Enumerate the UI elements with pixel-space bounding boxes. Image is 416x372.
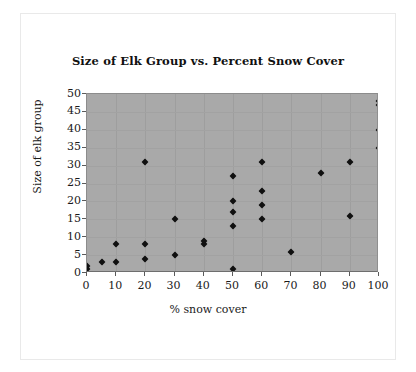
- y-tick-mark: [82, 236, 86, 237]
- data-point: [142, 158, 149, 165]
- data-point: [317, 169, 324, 176]
- x-tick-mark: [174, 272, 175, 276]
- y-tick-label: 30: [51, 159, 81, 170]
- gridline-horizontal: [87, 184, 377, 185]
- x-axis-tick-labels: 0102030405060708090100: [86, 279, 378, 295]
- gridline-horizontal: [87, 237, 377, 238]
- y-tick-mark: [82, 111, 86, 112]
- chart-title: Size of Elk Group vs. Percent Snow Cover: [0, 54, 416, 68]
- y-tick-label: 25: [51, 177, 81, 188]
- y-tick-label: 15: [51, 213, 81, 224]
- data-point: [259, 187, 266, 194]
- data-point: [142, 241, 149, 248]
- data-point: [171, 216, 178, 223]
- data-point: [171, 252, 178, 259]
- y-axis-tick-labels: 05101520253035404550: [48, 93, 81, 272]
- data-point: [288, 248, 295, 255]
- data-point: [229, 266, 236, 272]
- gridline-horizontal: [87, 219, 377, 220]
- x-tick-mark: [144, 272, 145, 276]
- y-tick-mark: [82, 93, 86, 94]
- gridline-horizontal: [87, 148, 377, 149]
- data-point: [229, 173, 236, 180]
- y-tick-label: 50: [51, 88, 81, 99]
- x-tick-mark: [349, 272, 350, 276]
- gridline-vertical: [233, 94, 234, 271]
- y-tick-mark: [82, 200, 86, 201]
- y-tick-mark: [82, 147, 86, 148]
- data-point: [259, 201, 266, 208]
- x-tick-mark: [261, 272, 262, 276]
- gridline-horizontal: [87, 130, 377, 131]
- data-point: [375, 126, 378, 133]
- x-tick-mark: [203, 272, 204, 276]
- data-point: [259, 216, 266, 223]
- y-tick-mark: [82, 129, 86, 130]
- y-tick-label: 10: [51, 231, 81, 242]
- y-tick-label: 5: [51, 249, 81, 260]
- data-point: [113, 259, 120, 266]
- x-tick-mark: [378, 272, 379, 276]
- y-tick-label: 20: [51, 195, 81, 206]
- gridline-vertical: [262, 94, 263, 271]
- gridline-horizontal: [87, 166, 377, 167]
- data-point: [229, 223, 236, 230]
- y-tick-mark: [82, 254, 86, 255]
- data-point: [113, 241, 120, 248]
- plot-area: [86, 93, 378, 272]
- gridline-vertical: [175, 94, 176, 271]
- x-tick-mark: [86, 272, 87, 276]
- gridline-vertical: [350, 94, 351, 271]
- data-point: [98, 259, 105, 266]
- x-tick-mark: [320, 272, 321, 276]
- gridline-horizontal: [87, 255, 377, 256]
- y-tick-label: 35: [51, 141, 81, 152]
- gridline-horizontal: [87, 112, 377, 113]
- figure-page: Size of Elk Group vs. Percent Snow Cover…: [0, 0, 416, 372]
- y-tick-label: 40: [51, 123, 81, 134]
- data-point: [229, 209, 236, 216]
- x-tick-mark: [290, 272, 291, 276]
- y-tick-label: 45: [51, 105, 81, 116]
- y-tick-mark: [82, 272, 86, 273]
- y-axis-title: Size of elk group: [31, 82, 44, 212]
- data-point: [229, 198, 236, 205]
- data-point: [375, 144, 378, 151]
- y-tick-mark: [82, 165, 86, 166]
- data-point: [346, 158, 353, 165]
- y-tick-label: 0: [51, 267, 81, 278]
- y-tick-mark: [82, 218, 86, 219]
- gridline-vertical: [321, 94, 322, 271]
- x-tick-mark: [232, 272, 233, 276]
- data-point: [259, 158, 266, 165]
- x-tick-label: 100: [360, 279, 396, 292]
- y-tick-mark: [82, 183, 86, 184]
- x-tick-mark: [115, 272, 116, 276]
- x-axis-title: % snow cover: [0, 303, 416, 316]
- data-point: [142, 255, 149, 262]
- gridline-vertical: [291, 94, 292, 271]
